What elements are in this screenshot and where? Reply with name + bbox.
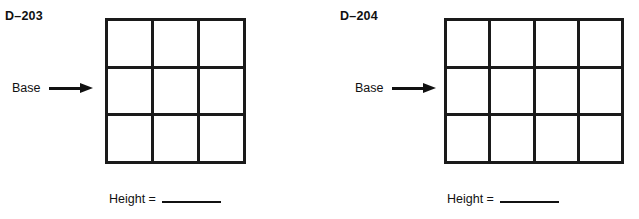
grid-cell <box>491 116 532 161</box>
base-label: Base <box>12 82 41 95</box>
arrow-right-icon <box>49 82 95 94</box>
grid-cell <box>200 69 243 114</box>
arrow-head <box>423 83 436 93</box>
grid-cell <box>491 21 532 66</box>
arrow-shaft <box>392 87 427 89</box>
grid-cell <box>447 21 488 66</box>
arrow-head <box>80 83 93 93</box>
grid-cell <box>491 69 532 114</box>
figure-d-203: D–203 Base Height = <box>0 0 330 219</box>
area-grid-d-204 <box>444 18 624 164</box>
height-answer-blank[interactable] <box>500 190 559 203</box>
grid-cell <box>580 69 621 114</box>
exercise-id-label: D–204 <box>340 9 378 23</box>
base-annotation: Base <box>12 82 95 95</box>
grid-cell <box>536 21 577 66</box>
height-prompt: Height = <box>109 190 221 206</box>
grid-cell <box>108 116 151 161</box>
base-label: Base <box>355 82 384 95</box>
grid-cell <box>154 116 197 161</box>
grid-cell <box>108 21 151 66</box>
figure-d-204: D–204 Base Height = <box>330 0 639 219</box>
arrow-shaft <box>49 87 84 89</box>
grid-cell <box>447 116 488 161</box>
arrow-right-icon <box>392 82 438 94</box>
grid-cell <box>154 21 197 66</box>
height-label: Height = <box>109 193 156 206</box>
height-label: Height = <box>447 193 494 206</box>
grid-cell <box>200 116 243 161</box>
base-annotation: Base <box>355 82 438 95</box>
grid-cell <box>154 69 197 114</box>
area-grid-d-203 <box>105 18 246 164</box>
grid-cell <box>536 116 577 161</box>
grid-cell <box>200 21 243 66</box>
grid-cell <box>580 116 621 161</box>
exercise-id-label: D–203 <box>5 9 43 23</box>
grid-cell <box>536 69 577 114</box>
height-prompt: Height = <box>447 190 559 206</box>
grid-cell <box>108 69 151 114</box>
grid-cell <box>447 69 488 114</box>
grid-cell <box>580 21 621 66</box>
height-answer-blank[interactable] <box>162 190 221 203</box>
